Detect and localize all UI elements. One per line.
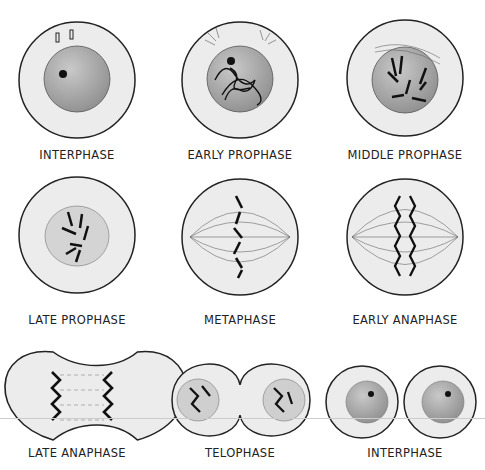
cell-early-anaphase [347, 179, 463, 295]
divider-line [0, 418, 485, 419]
label-telophase: TELOPHASE [160, 446, 320, 460]
label-middle-prophase: MIDDLE PROPHASE [325, 148, 485, 162]
cell-metaphase [182, 179, 298, 295]
cell-early-prophase [182, 22, 298, 138]
mitosis-diagram [0, 0, 485, 470]
label-interphase: INTERPHASE [0, 148, 157, 162]
cell-telophase [172, 364, 310, 436]
cell-late-prophase [19, 177, 135, 293]
label-interphase-final: INTERPHASE [325, 446, 485, 460]
label-early-prophase: EARLY PROPHASE [160, 148, 320, 162]
cell-middle-prophase [347, 20, 463, 136]
cell-interphase-daughters [326, 366, 476, 438]
label-metaphase: METAPHASE [160, 313, 320, 327]
cell-interphase [19, 22, 135, 138]
label-late-anaphase: LATE ANAPHASE [0, 446, 157, 460]
cell-late-anaphase [5, 352, 186, 440]
label-late-prophase: LATE PROPHASE [0, 313, 157, 327]
label-early-anaphase: EARLY ANAPHASE [325, 313, 485, 327]
